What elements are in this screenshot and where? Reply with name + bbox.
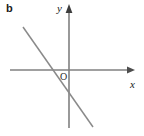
data-line (23, 27, 93, 127)
x-axis-label: x (130, 79, 135, 90)
panel-label-b: b (6, 3, 13, 14)
x-axis-arrowhead (127, 67, 135, 74)
y-axis-arrowhead (66, 4, 73, 13)
figure-panel-b: b y x O (0, 0, 144, 136)
coordinate-plot (0, 0, 144, 136)
y-axis-label: y (57, 3, 62, 14)
origin-label: O (60, 72, 67, 82)
